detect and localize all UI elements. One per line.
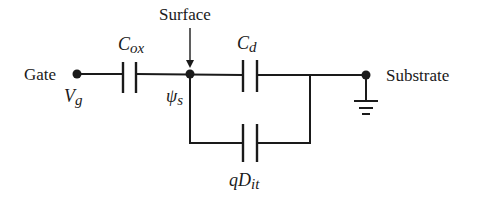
wire-surface-qdit <box>190 74 243 143</box>
surface-node <box>186 70 195 79</box>
gate-potential-label: Vg <box>64 86 83 108</box>
surface-potential-label: ψs <box>166 86 183 108</box>
qdit-label: qDit <box>229 170 260 192</box>
capacitor-cox <box>123 62 136 93</box>
capacitor-qdit <box>243 124 257 162</box>
substrate-label: Substrate <box>386 66 449 85</box>
capacitor-cd <box>243 60 257 92</box>
cox-label: Cox <box>118 34 145 56</box>
ground-icon <box>354 75 378 114</box>
gate-node <box>73 70 82 79</box>
surface-label: Surface <box>159 5 211 24</box>
circuit-diagram: Gate Vg Surface ψs Cox Cd qDit Substrate <box>0 0 483 207</box>
surface-arrow-icon <box>186 28 194 68</box>
gate-label: Gate <box>24 65 56 84</box>
cd-label: Cd <box>237 33 257 55</box>
wire-qdit-substrate <box>257 75 310 143</box>
